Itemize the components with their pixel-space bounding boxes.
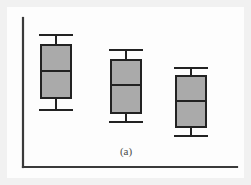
box-plot-chart: (a) (0, 0, 251, 185)
box-rect (111, 60, 141, 113)
figure-container: (a) (0, 0, 251, 185)
figure-caption: (a) (120, 145, 133, 158)
boxplot-group-3 (174, 68, 208, 136)
boxplot-group-1 (39, 35, 73, 110)
boxplot-group-2 (109, 50, 143, 122)
